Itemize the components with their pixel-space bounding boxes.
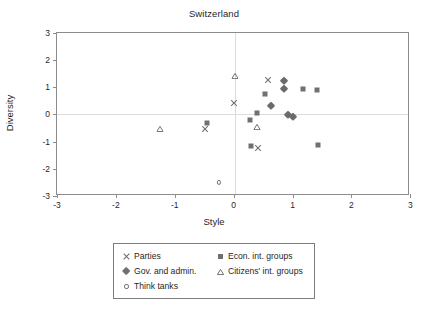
square-icon [315, 142, 320, 147]
legend-label: Citizens' int. groups [228, 267, 303, 276]
x-tick [116, 194, 117, 198]
x-tick-label: 0 [231, 201, 236, 210]
y-tick-label: 3 [45, 28, 50, 37]
zero-line-horizontal [57, 114, 408, 115]
y-tick-label: -2 [42, 165, 50, 174]
square-icon [300, 87, 305, 92]
x-tick [57, 194, 58, 198]
square-icon [314, 88, 319, 93]
triangle-icon [157, 126, 164, 132]
data-point [281, 77, 287, 83]
circle-icon [217, 180, 221, 184]
legend-entry[interactable]: Think tanks [121, 279, 196, 294]
x-tick [410, 194, 411, 198]
y-tick-label: -1 [42, 137, 50, 146]
y-tick [53, 60, 57, 61]
y-tick-label: 1 [45, 83, 50, 92]
data-point [255, 110, 260, 115]
data-point [254, 124, 261, 130]
square-icon [247, 117, 252, 122]
x-tick [234, 194, 235, 198]
square-icon [255, 110, 260, 115]
data-point [300, 87, 305, 92]
x-tick [175, 194, 176, 198]
data-point [263, 91, 268, 96]
legend-column-right: Econ. int. groupsCitizens' int. groups [215, 249, 303, 279]
legend-entry[interactable]: Parties [121, 249, 196, 264]
cross-icon [264, 77, 271, 84]
legend-label: Gov. and admin. [134, 267, 196, 276]
legend-marker [121, 281, 132, 292]
data-point [268, 102, 274, 108]
triangle-icon [231, 73, 238, 79]
triangle-icon [217, 269, 224, 275]
legend-label: Parties [134, 252, 161, 261]
cross-icon [230, 100, 237, 107]
diamond-icon [266, 101, 275, 110]
y-tick [53, 142, 57, 143]
circle-icon [124, 284, 128, 288]
data-point [315, 142, 320, 147]
y-tick [53, 87, 57, 88]
data-point [230, 100, 237, 107]
data-point [231, 73, 238, 79]
y-tick-label: 0 [45, 110, 50, 119]
data-point [201, 125, 208, 132]
x-tick-label: 2 [349, 201, 354, 210]
triangle-icon [254, 124, 261, 130]
chart-title: Switzerland [0, 8, 428, 19]
legend: PartiesGov. and admin.Think tanks Econ. … [113, 243, 315, 299]
data-point [314, 88, 319, 93]
x-axis-label: Style [0, 216, 428, 227]
data-point [290, 114, 296, 120]
diamond-icon [280, 76, 289, 85]
x-tick-label: -1 [171, 201, 179, 210]
data-point [248, 143, 253, 148]
diamond-icon [280, 85, 289, 94]
legend-marker [215, 251, 226, 262]
legend-entry[interactable]: Citizens' int. groups [215, 264, 303, 279]
cross-icon [255, 145, 262, 152]
diamond-icon [122, 267, 131, 276]
cross-icon [123, 253, 130, 260]
legend-entry[interactable]: Econ. int. groups [215, 249, 303, 264]
y-tick [53, 169, 57, 170]
square-icon [263, 91, 268, 96]
square-icon [248, 143, 253, 148]
scatter-plot-figure: Switzerland Diversity Style 3210-1-2-3 -… [0, 0, 428, 313]
data-point [264, 77, 271, 84]
legend-label: Think tanks [134, 282, 178, 291]
x-tick-label: -2 [112, 201, 120, 210]
x-tick [293, 194, 294, 198]
x-tick [351, 194, 352, 198]
legend-marker [121, 266, 132, 277]
x-tick-label: -3 [53, 201, 61, 210]
y-tick-label: 2 [45, 56, 50, 65]
cross-icon [201, 125, 208, 132]
data-point [255, 145, 262, 152]
legend-entry[interactable]: Gov. and admin. [121, 264, 196, 279]
legend-label: Econ. int. groups [228, 252, 293, 261]
x-tick-label: 3 [408, 201, 413, 210]
y-tick [53, 33, 57, 34]
data-point [205, 120, 210, 125]
y-tick-label: -3 [42, 192, 50, 201]
plot-area: 3210-1-2-3 -3-2-10123 [56, 32, 409, 195]
data-point [247, 117, 252, 122]
square-icon [218, 254, 223, 259]
legend-column-left: PartiesGov. and admin.Think tanks [121, 249, 196, 294]
data-point [217, 180, 221, 184]
data-point [281, 86, 287, 92]
diamond-icon [289, 112, 298, 121]
zero-line-vertical [235, 33, 236, 194]
y-tick [53, 114, 57, 115]
x-tick-label: 1 [290, 201, 295, 210]
y-axis-label: Diversity [4, 95, 15, 131]
square-icon [205, 120, 210, 125]
legend-marker [121, 251, 132, 262]
legend-marker [215, 266, 226, 277]
data-point [157, 126, 164, 132]
